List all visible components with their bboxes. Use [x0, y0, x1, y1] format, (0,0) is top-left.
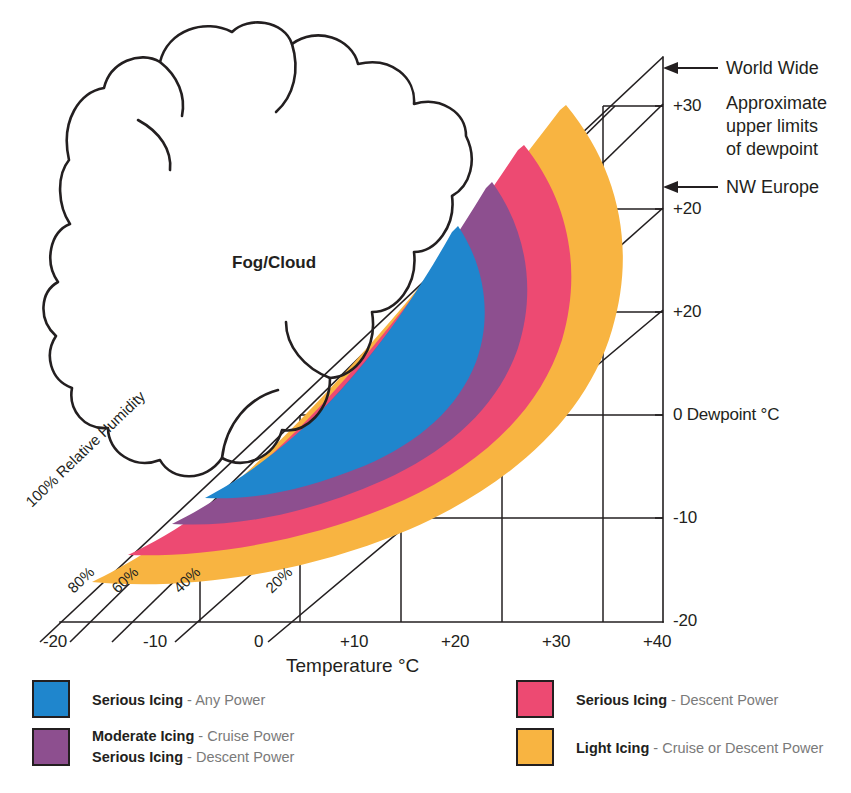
x-tick-minus20: -20	[43, 632, 67, 652]
chart-legend: Serious Icing - Any Power Moderate Icing…	[0, 672, 851, 793]
legend-desc: - Descent Power	[183, 749, 294, 765]
annotation-line-2: upper limits	[726, 115, 846, 138]
legend-term: Serious Icing	[92, 692, 183, 708]
legend-swatch-light-icing	[516, 728, 554, 766]
legend-row: Serious Icing - Descent Power	[92, 747, 294, 768]
legend-row: Moderate Icing - Cruise Power	[92, 726, 294, 747]
y-axis-zero-and-label: 0 Dewpoint °C	[673, 405, 779, 425]
legend-desc: - Cruise Power	[194, 728, 294, 744]
y-axis-ticks	[655, 106, 663, 518]
x-tick-plus20: +20	[441, 632, 469, 652]
annotation-arrows	[663, 62, 718, 193]
y-tick-minus10: -10	[673, 508, 697, 528]
legend-desc: - Descent Power	[667, 692, 778, 708]
x-tick-minus10: -10	[143, 632, 167, 652]
legend-swatch-serious-any-power	[32, 680, 70, 718]
x-tick-plus40: +40	[643, 632, 671, 652]
legend-term: Serious Icing	[92, 749, 183, 765]
x-tick-plus30: +30	[542, 632, 570, 652]
y-tick-plus20-upper: +20	[673, 199, 701, 219]
legend-term: Serious Icing	[576, 692, 667, 708]
x-tick-zero: 0	[254, 632, 263, 652]
legend-desc: - Cruise or Descent Power	[649, 740, 823, 756]
legend-term: Light Icing	[576, 740, 649, 756]
annotation-line-1: Approximate	[726, 92, 846, 115]
legend-label-moderate-cruise: Moderate Icing - Cruise Power Serious Ic…	[92, 726, 294, 768]
annotation-world-wide: World Wide	[726, 58, 819, 79]
legend-term: Moderate Icing	[92, 728, 194, 744]
annotation-approximate-upper-limits: Approximate upper limits of dewpoint	[726, 92, 846, 161]
legend-desc: - Any Power	[183, 692, 265, 708]
legend-swatch-serious-descent	[516, 680, 554, 718]
arrow-head-nw-europe	[663, 181, 678, 193]
plot-label-fog-cloud: Fog/Cloud	[232, 253, 316, 273]
legend-swatch-moderate-cruise	[32, 728, 70, 766]
y-tick-minus20: -20	[673, 611, 697, 631]
annotation-line-3: of dewpoint	[726, 138, 846, 161]
legend-label-light-icing: Light Icing - Cruise or Descent Power	[576, 738, 823, 759]
arrow-head-world-wide	[663, 62, 678, 74]
y-tick-plus20-lower: +20	[673, 302, 701, 322]
y-tick-plus30: +30	[673, 96, 701, 116]
x-tick-plus10: +10	[340, 632, 368, 652]
legend-label-serious-descent: Serious Icing - Descent Power	[576, 690, 778, 711]
legend-label-serious-any-power: Serious Icing - Any Power	[92, 690, 265, 711]
annotation-nw-europe: NW Europe	[726, 177, 819, 198]
